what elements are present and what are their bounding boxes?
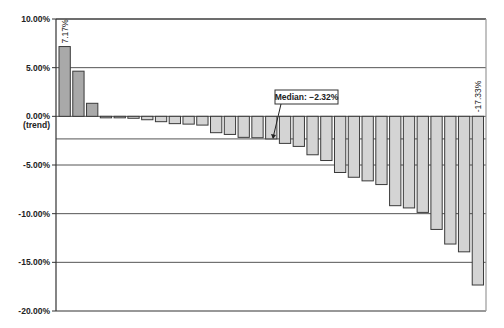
bar xyxy=(59,47,70,117)
bar xyxy=(197,116,208,125)
bar-value-label: 7.17% xyxy=(60,19,70,44)
bar xyxy=(403,116,414,208)
y-tick-label: -20.00% xyxy=(18,306,50,316)
bar xyxy=(348,116,359,177)
bar xyxy=(128,116,139,118)
bar xyxy=(142,116,153,119)
bar xyxy=(73,71,84,116)
bar xyxy=(114,116,125,118)
bar xyxy=(87,103,98,116)
y-tick-sublabel: (trend) xyxy=(23,120,50,130)
y-axis: 10.00%5.00%0.00%(trend)-5.00%-10.00%-15.… xyxy=(18,14,56,316)
y-tick-label: -10.00% xyxy=(18,209,50,219)
bar xyxy=(431,116,442,229)
y-tick-label: 10.00% xyxy=(21,14,50,24)
bar xyxy=(334,116,345,172)
bar-chart: 10.00%5.00%0.00%(trend)-5.00%-10.00%-15.… xyxy=(0,0,504,328)
bar xyxy=(183,116,194,124)
bar xyxy=(155,116,166,121)
bar xyxy=(417,116,428,212)
bar xyxy=(211,116,222,132)
bar xyxy=(169,116,180,123)
bar xyxy=(390,116,401,205)
bar xyxy=(252,116,263,137)
data-labels: 7.17%-17.33% xyxy=(60,19,483,112)
bar xyxy=(224,116,235,134)
callout-label: Median: −2.32% xyxy=(275,92,339,102)
bar xyxy=(321,116,332,160)
bar xyxy=(238,116,249,137)
bar xyxy=(445,116,456,244)
y-tick-label: -5.00% xyxy=(23,160,50,170)
bar xyxy=(362,116,373,181)
bar xyxy=(100,116,111,118)
bar xyxy=(376,116,387,184)
bar xyxy=(472,116,483,285)
bars xyxy=(59,47,484,285)
bar xyxy=(307,116,318,154)
y-tick-label: -15.00% xyxy=(18,257,50,267)
bar-value-label: -17.33% xyxy=(473,80,483,112)
bar xyxy=(279,116,290,143)
y-tick-label: 5.00% xyxy=(26,63,51,73)
bar xyxy=(293,116,304,146)
bar xyxy=(458,116,469,251)
